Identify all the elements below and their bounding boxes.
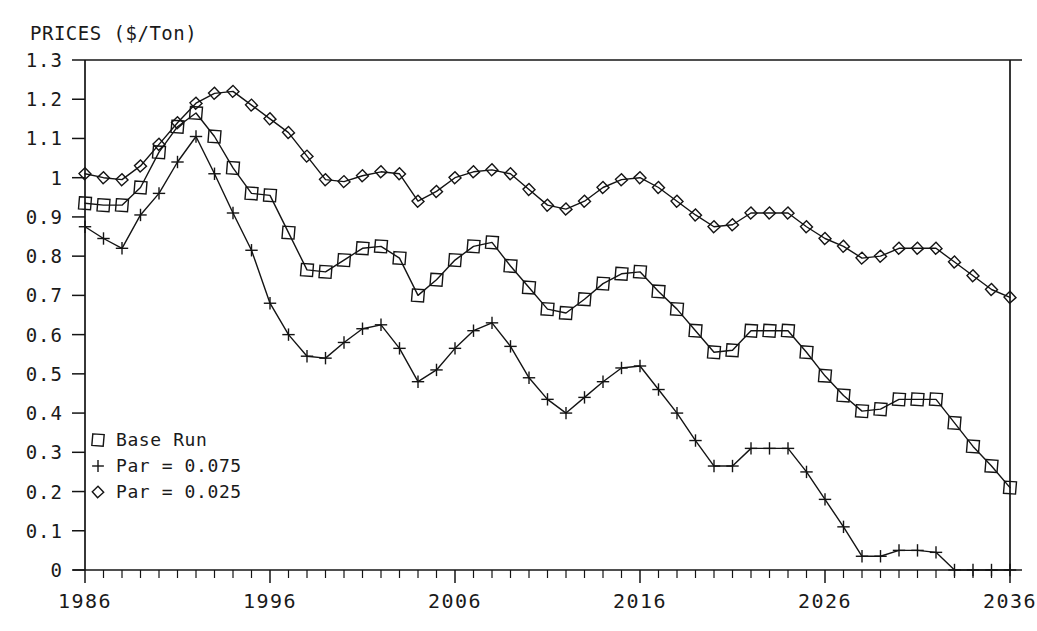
y-tick-label: 0.1	[26, 520, 63, 542]
marker-square	[92, 434, 104, 446]
data-series	[79, 106, 1017, 494]
x-tick-label: 2016	[613, 589, 667, 613]
y-tick-label: 0	[51, 559, 63, 581]
y-tick-label: 0.6	[26, 324, 63, 346]
chart-legend: Base RunPar = 0.075Par = 0.025	[92, 429, 242, 502]
legend-item-label: Base Run	[116, 429, 208, 450]
y-tick-label: 0.8	[26, 245, 63, 267]
x-tick-label: 2026	[798, 589, 852, 613]
y-axis: 1.31.21.110.90.80.70.60.50.40.30.20.10	[26, 49, 85, 581]
data-series-group	[79, 85, 1017, 576]
x-tick-label: 1996	[243, 589, 297, 613]
legend-item: Par = 0.075	[92, 455, 242, 476]
y-tick-label: 1.2	[26, 88, 63, 110]
series-line	[85, 137, 1010, 571]
y-tick-label: 1.3	[26, 49, 63, 71]
data-series	[79, 130, 1016, 576]
legend-item: Par = 0.025	[92, 481, 242, 502]
y-tick-label: 1.1	[26, 127, 63, 149]
series-line	[85, 113, 1010, 488]
y-tick-label: 0.9	[26, 206, 63, 228]
x-tick-label: 1986	[58, 589, 112, 613]
x-axis: 198619962006201620262036	[58, 570, 1037, 613]
y-tick-label: 0.4	[26, 402, 63, 424]
price-projection-chart: PRICES ($/Ton) 1.31.21.110.90.80.70.60.5…	[0, 0, 1037, 631]
marker-diamond	[92, 486, 103, 497]
legend-item-label: Par = 0.025	[116, 481, 242, 502]
y-tick-label: 0.3	[26, 441, 63, 463]
y-tick-label: 0.2	[26, 481, 63, 503]
data-series	[79, 85, 1016, 303]
y-tick-label: 0.7	[26, 284, 63, 306]
y-tick-label: 0.5	[26, 363, 63, 385]
x-tick-label: 2036	[983, 589, 1037, 613]
legend-item: Base Run	[92, 429, 208, 450]
chart-plot-area: 1.31.21.110.90.80.70.60.50.40.30.20.10 1…	[0, 0, 1037, 631]
x-tick-label: 2006	[428, 589, 482, 613]
legend-item-label: Par = 0.075	[116, 455, 242, 476]
y-tick-label: 1	[51, 167, 63, 189]
